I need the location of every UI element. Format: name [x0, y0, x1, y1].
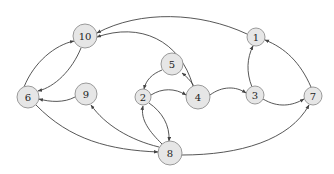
edge-2-to-8 — [149, 103, 169, 141]
edge-3-to-1 — [248, 46, 253, 87]
node-4: 4 — [186, 85, 210, 109]
node-label: 4 — [195, 92, 201, 103]
node-label: 7 — [310, 91, 316, 102]
edge-1-to-10 — [97, 17, 247, 34]
edge-4-to-3 — [210, 88, 246, 95]
directed-graph: 10156924378 — [0, 0, 334, 174]
edge-10-to-6 — [38, 48, 81, 91]
node-label: 10 — [79, 31, 92, 42]
edge-7-to-1 — [265, 40, 311, 87]
node-8: 8 — [158, 141, 182, 165]
node-label: 1 — [253, 32, 259, 43]
edge-5-to-2 — [144, 70, 162, 89]
edge-9-to-6 — [39, 97, 75, 101]
edge-6-to-10 — [24, 41, 74, 87]
node-label: 6 — [25, 92, 31, 103]
node-5: 5 — [161, 53, 183, 75]
edge-4-to-5 — [182, 73, 194, 86]
node-10: 10 — [73, 24, 97, 48]
node-9: 9 — [75, 83, 97, 105]
node-2: 2 — [135, 89, 151, 105]
edge-8-to-7 — [182, 105, 309, 155]
edge-2-to-4 — [151, 90, 186, 95]
edges-layer — [24, 17, 311, 155]
edge-8-to-9 — [91, 105, 159, 147]
edge-3-to-7 — [263, 99, 304, 105]
node-label: 5 — [169, 59, 175, 70]
node-1: 1 — [247, 28, 265, 46]
graph-canvas: 10156924378 — [0, 0, 334, 174]
node-6: 6 — [17, 86, 39, 108]
node-label: 8 — [167, 148, 173, 159]
node-label: 9 — [83, 89, 89, 100]
node-7: 7 — [304, 87, 322, 105]
node-3: 3 — [246, 86, 264, 104]
node-label: 2 — [140, 92, 146, 103]
node-label: 3 — [252, 90, 258, 101]
